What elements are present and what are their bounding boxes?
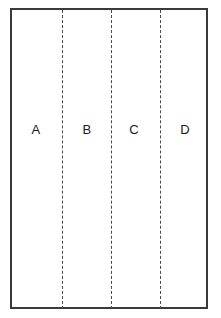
divider-line-ab xyxy=(62,10,63,309)
region-label-d: D xyxy=(175,122,195,138)
outer-rectangle xyxy=(10,8,208,309)
figure-canvas: A B C D xyxy=(0,0,221,318)
divider-line-bc xyxy=(111,10,112,309)
region-label-b: B xyxy=(77,122,97,138)
divider-line-cd xyxy=(160,10,161,309)
region-label-a: A xyxy=(26,122,46,138)
region-label-c: C xyxy=(124,122,144,138)
